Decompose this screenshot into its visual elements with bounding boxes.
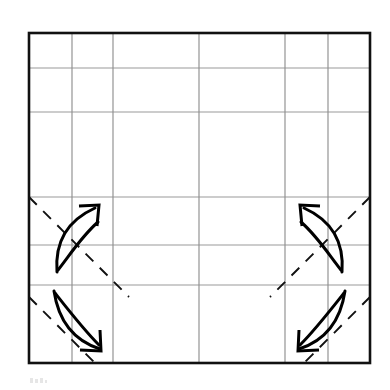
- diagram-root: Origami fold step diagram Square sheet w…: [0, 0, 390, 390]
- canvas-background: [0, 0, 390, 390]
- origami-fold-diagram: Origami fold step diagram Square sheet w…: [0, 0, 390, 390]
